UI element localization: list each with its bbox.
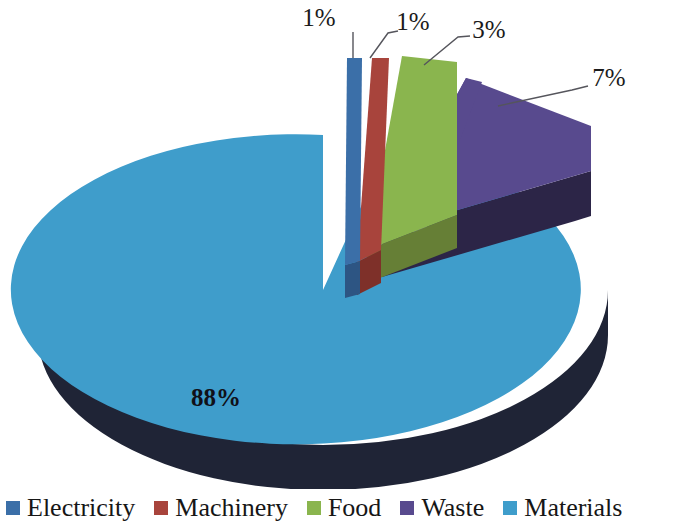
label-machinery-pct: 1% bbox=[396, 8, 429, 35]
pie-slice-electricity-top bbox=[345, 58, 362, 265]
legend-item-machinery[interactable]: Machinery bbox=[154, 495, 288, 521]
leader-line-machinery bbox=[370, 31, 398, 58]
legend-item-food[interactable]: Food bbox=[307, 495, 381, 521]
label-materials-pct: 88% bbox=[191, 384, 241, 411]
legend-swatch-materials bbox=[503, 501, 517, 515]
chart-legend: Electricity Machinery Food Waste Materia… bbox=[0, 487, 694, 529]
legend-label-electricity: Electricity bbox=[27, 495, 135, 521]
legend-label-materials: Materials bbox=[524, 495, 622, 521]
legend-item-materials[interactable]: Materials bbox=[503, 495, 622, 521]
legend-label-food: Food bbox=[328, 495, 381, 521]
legend-label-waste: Waste bbox=[421, 495, 484, 521]
label-food-pct: 3% bbox=[472, 16, 505, 43]
pie-chart-figure: 1% 1% 3% 7% 88% Electricity Machinery Fo… bbox=[0, 0, 694, 529]
legend-swatch-electricity bbox=[6, 501, 20, 515]
pie-slice-electricity[interactable] bbox=[345, 58, 362, 298]
legend-item-waste[interactable]: Waste bbox=[400, 495, 484, 521]
legend-swatch-machinery bbox=[154, 501, 168, 515]
label-electricity-pct: 1% bbox=[302, 4, 335, 31]
legend-item-electricity[interactable]: Electricity bbox=[6, 495, 135, 521]
pie-chart-canvas: 1% 1% 3% 7% 88% bbox=[0, 0, 694, 489]
label-waste-pct: 7% bbox=[592, 64, 625, 91]
legend-label-machinery: Machinery bbox=[175, 495, 288, 521]
pie-slice-electricity-side bbox=[345, 261, 360, 298]
legend-swatch-food bbox=[307, 501, 321, 515]
legend-swatch-waste bbox=[400, 501, 414, 515]
